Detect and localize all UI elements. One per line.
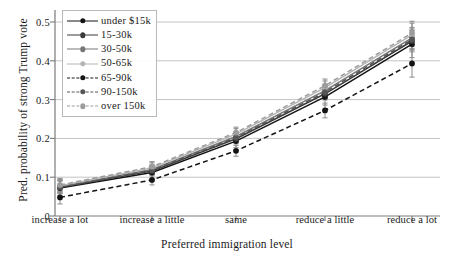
legend-label: 15-30k xyxy=(101,30,132,41)
data-point xyxy=(57,182,63,188)
legend-item: 15-30k xyxy=(67,28,153,42)
x-tick-label: reduce a lot xyxy=(387,214,437,225)
legend-label: 30-50k xyxy=(101,44,132,55)
legend-key-icon xyxy=(67,29,98,41)
data-point xyxy=(149,164,155,170)
data-point xyxy=(149,177,155,183)
legend-label: 90-150k xyxy=(101,87,138,98)
data-point xyxy=(322,108,328,114)
legend-key-icon xyxy=(67,15,98,27)
x-tick-label: increase a lot xyxy=(32,214,89,225)
legend-item: 50-65k xyxy=(67,57,153,71)
legend-item: under $15k xyxy=(67,14,153,28)
data-point xyxy=(233,135,239,141)
x-tick-label: increase a little xyxy=(119,214,184,225)
y-tick-label: 0.5 xyxy=(20,17,50,28)
legend-label: 65-90k xyxy=(101,73,132,84)
legend-key-icon xyxy=(67,58,98,70)
data-point xyxy=(322,89,328,95)
legend-item: 30-50k xyxy=(67,42,153,56)
x-tick-label: same xyxy=(225,214,247,225)
y-tick-label: 0.4 xyxy=(20,55,50,66)
legend-item: over 150k xyxy=(67,99,153,113)
legend-label: over 150k xyxy=(101,101,146,112)
legend-label: under $15k xyxy=(101,16,151,27)
legend-key-icon xyxy=(67,86,98,98)
data-point xyxy=(409,61,415,67)
legend-key-icon xyxy=(67,43,98,55)
y-tick-label: 0.2 xyxy=(20,133,50,144)
y-tick-label: 0.1 xyxy=(20,172,50,183)
legend: under $15k15-30k30-50k50-65k65-90k90-150… xyxy=(62,10,157,117)
data-point xyxy=(233,130,239,136)
chart-figure: Pred. probability of strong Trump vote 0… xyxy=(0,0,454,264)
legend-item: 65-90k xyxy=(67,71,153,85)
data-point xyxy=(409,30,415,36)
x-tick-label: reduce a little xyxy=(296,214,355,225)
y-tick-label: 0.3 xyxy=(20,94,50,105)
data-point xyxy=(409,37,415,43)
legend-item: 90-150k xyxy=(67,85,153,99)
legend-label: 50-65k xyxy=(101,58,132,69)
legend-key-icon xyxy=(67,100,98,112)
x-axis-title: Preferred immigration level xyxy=(0,238,454,250)
data-point xyxy=(322,83,328,89)
legend-key-icon xyxy=(67,72,98,84)
data-point xyxy=(57,194,63,200)
data-point xyxy=(233,148,239,154)
